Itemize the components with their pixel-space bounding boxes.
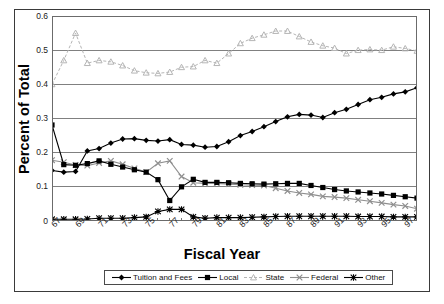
- data-point-square: [144, 170, 149, 175]
- data-point-diamond: [249, 129, 255, 135]
- data-point-diamond: [190, 142, 196, 148]
- data-point-triangle: [308, 39, 314, 44]
- plot-area: [52, 16, 417, 221]
- data-point-diamond: [119, 275, 125, 281]
- series-line: [52, 88, 417, 172]
- data-point-square: [167, 198, 172, 203]
- data-point-diamond: [273, 119, 279, 125]
- data-point-square: [85, 161, 90, 166]
- y-tick-label: 0.2: [18, 148, 48, 157]
- data-point-star: [343, 213, 349, 219]
- y-tick-label: 0.3: [18, 114, 48, 123]
- data-point-diamond: [332, 110, 338, 116]
- data-point-square: [120, 164, 125, 169]
- series-state: [52, 28, 417, 87]
- series-line: [52, 31, 417, 84]
- data-point-square: [379, 191, 384, 196]
- data-point-diamond: [343, 106, 349, 112]
- data-point-diamond: [379, 94, 385, 100]
- data-point-square: [261, 182, 266, 187]
- data-point-triangle: [390, 44, 396, 49]
- data-point-cross: [179, 174, 185, 180]
- legend-item-state[interactable]: State: [244, 273, 284, 282]
- data-point-square: [132, 167, 137, 172]
- legend-marker-square-icon: [198, 273, 217, 282]
- data-point-star: [108, 215, 114, 221]
- y-tick-label: 0: [18, 217, 48, 226]
- data-point-diamond: [355, 102, 361, 108]
- data-point-star: [202, 215, 208, 221]
- legend-label: Federal: [311, 273, 338, 282]
- data-point-diamond: [261, 124, 267, 130]
- x-axis-tick-labels: 67697173757779818385878991939597: [52, 222, 417, 246]
- data-point-diamond: [308, 112, 314, 118]
- data-point-diamond: [202, 144, 208, 150]
- data-point-star: [272, 213, 278, 219]
- data-point-diamond: [155, 138, 161, 144]
- data-point-diamond: [367, 97, 373, 103]
- legend-marker-triangle-icon: [244, 273, 263, 282]
- series-federal: [52, 157, 417, 211]
- data-point-square: [414, 196, 417, 201]
- data-point-square: [226, 180, 231, 185]
- data-point-star: [296, 213, 302, 219]
- legend-label: State: [265, 273, 284, 282]
- data-point-square: [155, 177, 160, 182]
- data-point-diamond: [391, 91, 397, 97]
- data-point-star: [155, 208, 161, 214]
- legend-label: Local: [219, 273, 238, 282]
- data-point-square: [403, 194, 408, 199]
- legend-label: Tuition and Fees: [133, 273, 192, 282]
- data-point-diamond: [96, 146, 102, 152]
- data-point-star: [414, 214, 417, 220]
- legend-item-federal[interactable]: Federal: [290, 273, 338, 282]
- series-line: [52, 160, 417, 209]
- data-point-square: [202, 180, 207, 185]
- data-point-square: [391, 193, 396, 198]
- data-point-square: [297, 181, 302, 186]
- data-point-diamond: [73, 169, 79, 175]
- y-tick-label: 0.1: [18, 182, 48, 191]
- data-point-star: [351, 274, 357, 280]
- data-point-square: [320, 185, 325, 190]
- data-point-diamond: [320, 115, 326, 121]
- series-line: [52, 125, 417, 201]
- data-point-diamond: [132, 136, 138, 142]
- y-tick-label: 0.5: [18, 46, 48, 55]
- data-point-square: [191, 177, 196, 182]
- data-point-diamond: [237, 133, 243, 139]
- legend-item-other[interactable]: Other: [344, 273, 385, 282]
- data-point-square: [356, 189, 361, 194]
- legend-label: Other: [365, 273, 385, 282]
- data-point-square: [250, 181, 255, 186]
- data-point-diamond: [61, 169, 67, 175]
- data-point-diamond: [226, 139, 232, 145]
- data-point-diamond: [296, 112, 302, 118]
- series-local: [52, 122, 417, 203]
- chart-legend: Tuition and FeesLocalStateFederalOther: [104, 270, 393, 285]
- legend-marker-star-icon: [344, 273, 363, 282]
- data-point-diamond: [402, 89, 408, 95]
- data-point-diamond: [214, 144, 220, 150]
- legend-marker-diamond-icon: [112, 273, 131, 282]
- data-point-square: [179, 184, 184, 189]
- legend-item-tuition-and-fees[interactable]: Tuition and Fees: [112, 273, 192, 282]
- data-point-square: [332, 187, 337, 192]
- data-point-diamond: [108, 140, 114, 146]
- data-point-square: [238, 181, 243, 186]
- data-point-square: [73, 163, 78, 168]
- data-point-diamond: [52, 168, 55, 174]
- data-point-square: [273, 181, 278, 186]
- data-point-diamond: [414, 85, 417, 91]
- data-point-star: [178, 206, 184, 212]
- data-point-square: [308, 183, 313, 188]
- data-point-square: [108, 162, 113, 167]
- data-point-square: [61, 162, 66, 167]
- y-axis-tick-labels: 0.60.50.40.30.20.10: [14, 16, 48, 221]
- y-tick-label: 0.6: [18, 12, 48, 21]
- legend-marker-cross-icon: [290, 273, 309, 282]
- data-point-diamond: [179, 142, 185, 148]
- series-canvas: [52, 16, 417, 221]
- legend-item-local[interactable]: Local: [198, 273, 238, 282]
- data-point-square: [96, 158, 101, 163]
